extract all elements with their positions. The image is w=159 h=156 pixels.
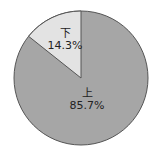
pie-chart [0, 0, 159, 156]
slice-label-upper: 上 85.7% [65, 88, 109, 112]
slice-value: 14.3% [45, 40, 85, 52]
slice-value: 85.7% [65, 100, 109, 112]
slice-label-lower: 下 14.3% [45, 28, 85, 52]
